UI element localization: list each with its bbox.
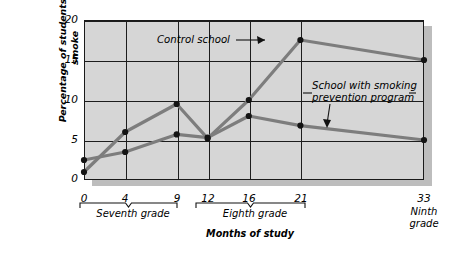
annotation-arrow-head: [323, 119, 331, 128]
annotation-leader-layer: [0, 0, 461, 254]
chart-figure: 20 15 10 5 0 Percentage of students who …: [0, 0, 461, 254]
annotation-arrow-head: [257, 36, 265, 44]
